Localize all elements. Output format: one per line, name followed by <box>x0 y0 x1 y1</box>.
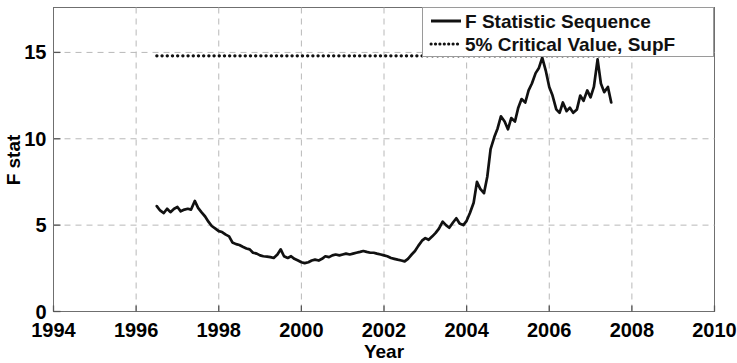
x-tick-label: 1998 <box>197 319 242 341</box>
y-axis-title: F stat <box>3 134 24 185</box>
x-axis-tick-labels: 199419961998200020022004200620082010 <box>31 319 737 341</box>
x-tick-label: 2008 <box>610 319 655 341</box>
x-axis-title: Year <box>364 341 405 362</box>
legend-label-critical-value: 5% Critical Value, SupF <box>465 34 675 55</box>
x-tick-label: 1996 <box>114 319 159 341</box>
x-tick-label: 2000 <box>279 319 324 341</box>
legend-label-f-statistic: F Statistic Sequence <box>465 11 651 32</box>
x-tick-label: 1994 <box>31 319 76 341</box>
y-tick-label: 10 <box>24 128 46 150</box>
f-statistic-line-chart: 051015 199419961998200020022004200620082… <box>0 0 737 363</box>
x-tick-label: 2010 <box>692 319 737 341</box>
chart-legend: F Statistic Sequence 5% Critical Value, … <box>423 8 714 57</box>
x-tick-label: 2004 <box>444 319 489 341</box>
x-tick-label: 2006 <box>527 319 572 341</box>
y-tick-label: 15 <box>24 41 46 63</box>
x-tick-label: 2002 <box>362 319 407 341</box>
y-tick-label: 5 <box>35 214 46 236</box>
chart-figure: 051015 199419961998200020022004200620082… <box>0 0 737 363</box>
